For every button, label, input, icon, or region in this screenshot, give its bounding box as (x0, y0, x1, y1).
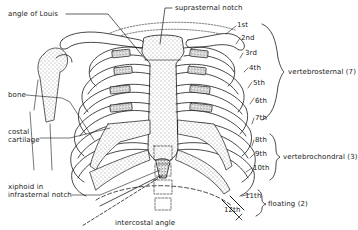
rib-label-10: 10th (253, 164, 270, 172)
label-xiphoid-line1: xiphoid in (8, 183, 43, 191)
rib-label-3: 3rd (245, 49, 257, 57)
rib-label-12: 12th (224, 206, 241, 214)
rib-label-6: 6th (255, 97, 267, 105)
label-vertebrochondral: vertebrochondral (3) (283, 153, 358, 161)
label-costal-line1: costal (8, 128, 29, 136)
rib-label-8: 8th (255, 136, 267, 144)
rib-label-1: 1st (237, 21, 248, 29)
label-xiphoid-infrasternal-notch: infrasternal notch (8, 191, 72, 199)
label-suprasternal-notch: suprasternal notch (175, 4, 243, 12)
label-bone: bone (8, 91, 26, 99)
rib-label-2: 2nd (241, 34, 255, 42)
rib-label-11: 11th (245, 192, 262, 200)
rib-label-4: 4th (249, 64, 261, 72)
label-angle-of-louis: angle of Louis (8, 10, 58, 18)
rib-label-7: 7th (255, 114, 267, 122)
label-costal-cartilage: cartilage (8, 136, 40, 144)
rib-label-5: 5th (253, 79, 265, 87)
label-floating: floating (2) (268, 200, 308, 208)
rib-label-9: 9th (255, 150, 267, 158)
label-intercostal-angle: intercostal angle (115, 219, 175, 227)
label-vertebrosternal: vertebrosternal (7) (288, 68, 356, 76)
